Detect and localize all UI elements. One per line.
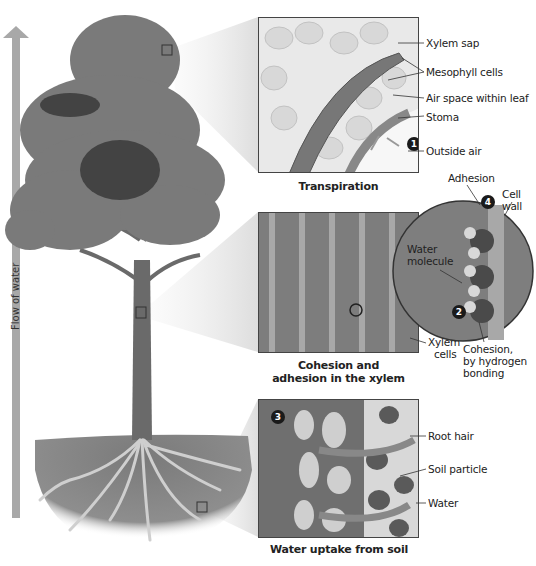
label-xylem-sap: Xylem sap — [426, 37, 479, 49]
soil-caption: Water uptake from soil — [240, 543, 438, 556]
xylem-caption: Cohesion and adhesion in the xylem — [258, 359, 419, 385]
label-water-molecule: Water molecule — [407, 243, 453, 267]
label-air-space: Air space within leaf — [426, 92, 528, 104]
label-root-hair: Root hair — [428, 430, 474, 442]
soil-panel: 3 — [258, 399, 419, 538]
leaf-cross-section — [259, 18, 419, 173]
label-soil-particle: Soil particle — [428, 463, 487, 475]
label-cell-wall: Cell wall — [502, 188, 522, 212]
label-mesophyll-cells: Mesophyll cells — [426, 66, 503, 78]
step-4-badge: 4 — [481, 195, 495, 209]
transpiration-panel: 1 — [258, 17, 419, 173]
transpiration-caption: Transpiration — [258, 180, 419, 193]
step-2-badge: 2 — [452, 305, 466, 319]
step-1-badge: 1 — [407, 137, 419, 151]
label-cohesion: Cohesion, by hydrogen bonding — [463, 343, 527, 379]
tree-illustration — [0, 0, 260, 566]
label-outside-air: Outside air — [426, 145, 481, 157]
molecule-zoom-circle — [390, 195, 536, 345]
step-3-badge: 3 — [271, 410, 285, 424]
label-water: Water — [428, 497, 458, 509]
label-adhesion: Adhesion — [448, 172, 495, 184]
label-stoma: Stoma — [426, 111, 459, 123]
